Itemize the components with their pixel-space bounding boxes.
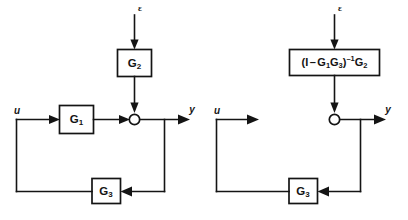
right-input-label: u bbox=[214, 105, 220, 116]
left-diagram: G2 G1 G3 ε u y bbox=[14, 3, 195, 203]
left-y-arrowhead bbox=[178, 115, 190, 125]
left-u-arrowhead bbox=[49, 115, 60, 124]
block-diagram-figure: G2 G1 G3 ε u y bbox=[0, 0, 408, 220]
left-epsilon-arrowhead bbox=[130, 40, 138, 50]
left-epsilon-label: ε bbox=[138, 3, 142, 13]
right-epsilon-arrowhead bbox=[330, 40, 338, 50]
diagram-canvas: G2 G1 G3 ε u y bbox=[0, 0, 408, 220]
left-sum-input-arrowhead bbox=[119, 115, 130, 124]
right-diagram: (I–G1G3)–1G2 G3 ε u y bbox=[214, 3, 391, 203]
left-g3-input-arrowhead bbox=[121, 187, 133, 197]
left-input-label: u bbox=[14, 105, 20, 116]
right-u-arrowhead bbox=[247, 115, 259, 125]
right-summing-junction bbox=[329, 114, 339, 124]
right-g3-input-arrowhead bbox=[318, 187, 330, 197]
right-block-to-sum-arrowhead bbox=[330, 103, 338, 114]
right-output-label: y bbox=[384, 104, 391, 115]
left-summing-junction bbox=[129, 114, 139, 124]
right-epsilon-label: ε bbox=[338, 3, 342, 13]
left-output-label: y bbox=[188, 104, 195, 115]
right-y-arrowhead bbox=[374, 115, 386, 125]
right-block-combined-label: (I–G1G3)–1G2 bbox=[301, 53, 367, 70]
left-g2-to-sum-arrowhead bbox=[130, 103, 138, 114]
